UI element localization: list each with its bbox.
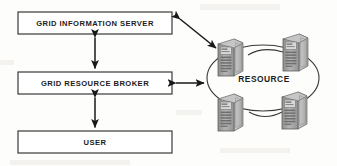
resource-link-top — [248, 50, 283, 55]
grid-architecture-diagram: RESOURCE GRID INFORMATION SERVER GRID RE… — [0, 0, 337, 166]
resource-node-top-left-icon — [218, 39, 243, 76]
user-label: USER — [84, 138, 107, 147]
diagram-canvas: RESOURCE GRID INFORMATION SERVER GRID RE… — [0, 0, 337, 166]
resource-node-top-right-icon — [283, 34, 308, 71]
resource-node-bottom-right-icon — [282, 92, 307, 129]
resource-link-bottom — [249, 112, 282, 117]
resource-node-bottom-left-icon — [218, 94, 243, 131]
resource-cluster-label: RESOURCE — [238, 74, 289, 84]
grid-resource-broker-label: GRID RESOURCE BROKER — [41, 79, 149, 88]
connector-gis-to-resource — [180, 19, 216, 48]
grid-information-server-label: GRID INFORMATION SERVER — [36, 19, 154, 28]
